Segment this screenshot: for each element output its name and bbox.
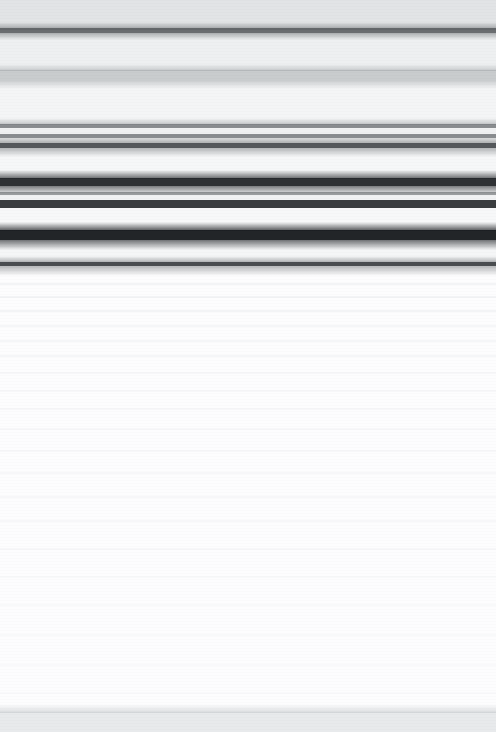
ghost-row-2 (0, 310, 496, 312)
ghost-row-7 (0, 390, 496, 392)
ghost-row-9 (0, 428, 496, 430)
ghost-row-16 (0, 604, 496, 606)
ghost-row-13 (0, 520, 496, 522)
ghost-row-17 (0, 634, 496, 636)
ghost-row-3 (0, 325, 496, 327)
ghost-row-19 (0, 692, 496, 694)
ghost-row-1 (0, 296, 496, 298)
ghost-text-row-layer (0, 0, 496, 732)
ghost-row-10 (0, 450, 496, 452)
ghost-row-5 (0, 355, 496, 357)
ghost-row-15 (0, 576, 496, 578)
blurred-screenshot-canvas (0, 0, 496, 732)
ghost-row-8 (0, 408, 496, 410)
ghost-row-11 (0, 472, 496, 474)
ghost-row-14 (0, 548, 496, 550)
ghost-row-18 (0, 664, 496, 666)
ghost-row-6 (0, 372, 496, 374)
ghost-row-12 (0, 496, 496, 498)
ghost-row-0 (0, 283, 496, 285)
ghost-row-4 (0, 340, 496, 342)
